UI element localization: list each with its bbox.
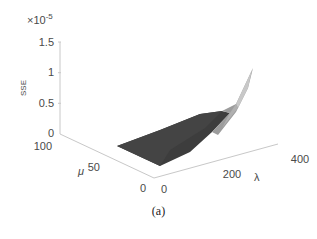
z-tick-0.5: 0.5	[39, 97, 54, 109]
z-tick-1: 1	[48, 66, 54, 78]
lambda-tick-400: 400	[291, 153, 309, 165]
mu-tick-100: 100	[34, 140, 52, 152]
z-exponent-label: ×10-5	[27, 12, 53, 26]
z-axis-label: SSE	[19, 80, 28, 96]
mu-tick-0: 0	[140, 182, 146, 194]
z-tick-0: 0	[48, 127, 54, 139]
lambda-tick-0: 0	[161, 183, 167, 195]
lambda-axis-label: λ	[254, 171, 260, 183]
figure-caption: (a)	[0, 204, 317, 219]
surface-rising-ramp-highlight	[236, 70, 252, 108]
mu-tick-50: 50	[88, 161, 100, 173]
lambda-tick-200: 200	[223, 168, 241, 180]
z-tick-1.5: 1.5	[39, 36, 54, 48]
mu-axis-label: μ	[77, 165, 84, 177]
